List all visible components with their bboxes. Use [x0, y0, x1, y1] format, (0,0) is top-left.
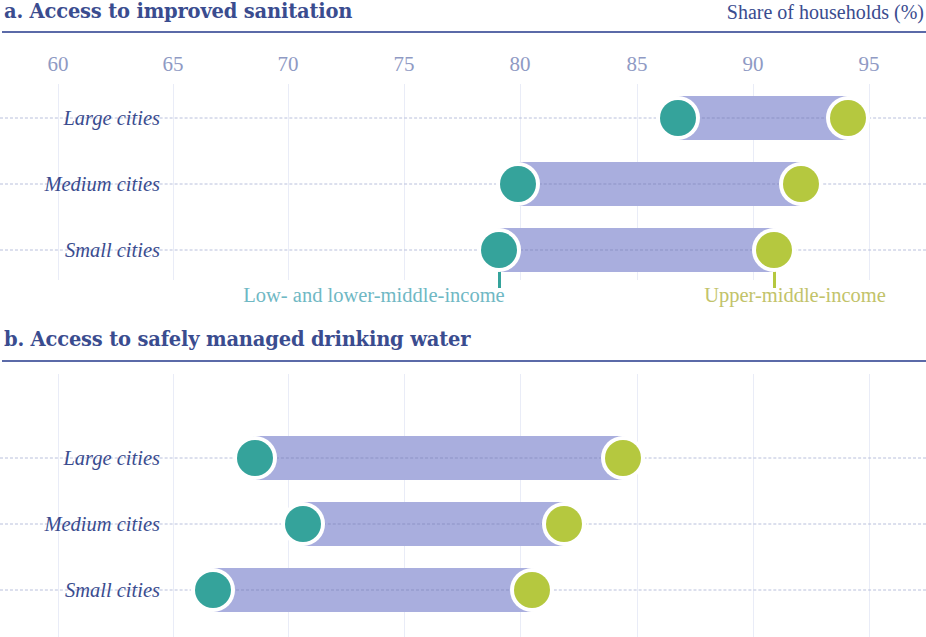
dot-upper-middle-small-cities [756, 232, 792, 268]
panel-a-rule [2, 31, 926, 33]
panel-b-plot: Large cities Medium cities Small cities [0, 374, 926, 637]
table-row: Medium cities [0, 496, 926, 552]
xtick-65: 65 [163, 52, 184, 77]
xtick-90: 90 [743, 52, 764, 77]
xtick-80: 80 [510, 52, 531, 77]
range-bar-large-cities [237, 436, 641, 480]
xtick-70: 70 [278, 52, 299, 77]
xtick-95: 95 [859, 52, 880, 77]
row-label-large-cities: Large cities [0, 447, 160, 470]
row-label-large-cities: Large cities [0, 107, 160, 130]
panel-b-header: b. Access to safely managed drinking wat… [0, 328, 926, 358]
panel-a-header: a. Access to improved sanitation Share o… [0, 0, 926, 30]
panel-a: a. Access to improved sanitation Share o… [0, 0, 926, 325]
row-label-small-cities: Small cities [0, 579, 160, 602]
table-row: Small cities [0, 562, 926, 618]
dot-low-income-medium-cities [500, 166, 536, 202]
bar-dash [261, 458, 617, 459]
dot-low-income-large-cities [660, 100, 696, 136]
range-bar-small-cities [195, 568, 550, 612]
bar-dash [216, 590, 528, 591]
row-label-medium-cities: Medium cities [0, 513, 160, 536]
dot-low-income-medium-cities [285, 506, 321, 542]
dot-upper-middle-medium-cities [783, 166, 819, 202]
bar-dash [519, 184, 800, 185]
table-row: Large cities [0, 430, 926, 486]
row-label-medium-cities: Medium cities [0, 173, 160, 196]
dot-upper-middle-small-cities [514, 572, 550, 608]
panel-b: b. Access to safely managed drinking wat… [0, 328, 926, 637]
table-row: Medium cities [0, 156, 926, 212]
range-bar-medium-cities [285, 502, 582, 546]
row-label-small-cities: Small cities [0, 239, 160, 262]
dot-low-income-large-cities [237, 440, 273, 476]
dot-low-income-small-cities [195, 572, 231, 608]
xtick-85: 85 [627, 52, 648, 77]
range-bar-medium-cities [500, 162, 819, 206]
bar-dash [500, 250, 774, 251]
xtick-75: 75 [394, 52, 415, 77]
legend-label-upper-middle-income: Upper-middle-income [704, 284, 886, 307]
bar-dash [303, 524, 564, 525]
panel-b-title: b. Access to safely managed drinking wat… [4, 328, 470, 351]
dot-upper-middle-large-cities [605, 440, 641, 476]
panel-b-rule [2, 360, 926, 362]
table-row: Large cities [0, 90, 926, 146]
panel-a-x-axis: 60 65 70 75 80 85 90 95 [0, 52, 926, 82]
dot-upper-middle-large-cities [830, 100, 866, 136]
xtick-60: 60 [48, 52, 69, 77]
panel-a-plot: Large cities Medium cities Small cities [0, 84, 926, 280]
bar-dash [672, 118, 853, 119]
dot-low-income-small-cities [481, 232, 517, 268]
axis-unit-label: Share of households (%) [727, 1, 924, 24]
legend-label-low-income: Low- and lower-middle-income [243, 284, 504, 307]
legend: Low- and lower-middle-income Upper-middl… [0, 266, 926, 312]
panel-a-title: a. Access to improved sanitation [4, 0, 352, 23]
dot-upper-middle-medium-cities [546, 506, 582, 542]
